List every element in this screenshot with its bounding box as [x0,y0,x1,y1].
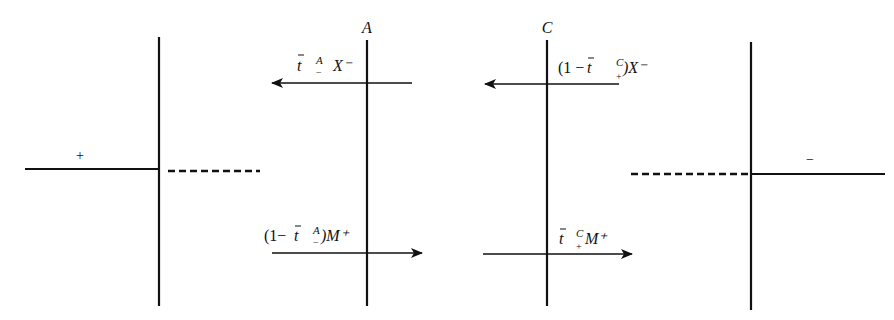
svg-text:t: t [587,59,592,76]
minus-sign-label: − [806,152,814,167]
svg-text:(1−: (1− [264,227,286,245]
svg-text:(1 −: (1 − [558,59,584,77]
panel-a: A t A − X⁻ (1− t A − )M⁺ [264,19,422,306]
panel-c-lower-label: t C + M⁺ [559,227,608,252]
svg-text:t: t [297,57,302,74]
right-panel: − [631,42,885,310]
panel-c-upper-label: (1 − t C + )X⁻ [558,56,648,82]
svg-text:)M⁺: )M⁺ [320,227,350,245]
svg-text:+: + [576,241,582,252]
membrane-transport-diagram: + A t A − X⁻ (1− t A − )M⁺ C [0,0,894,320]
svg-text:)X⁻: )X⁻ [622,59,648,77]
panel-c: C (1 − t C + )X⁻ t C + M⁺ [483,19,648,306]
panel-a-lower-label: (1− t A − )M⁺ [264,224,350,248]
panel-a-upper-label: t A − X⁻ [297,54,353,78]
svg-text:t: t [559,230,564,247]
svg-text:X⁻: X⁻ [332,57,353,74]
left-panel: + [25,37,260,306]
svg-text:M⁺: M⁺ [584,230,608,247]
svg-text:A: A [315,54,323,66]
panel-a-title: A [361,19,372,36]
svg-text:A: A [312,224,320,236]
svg-text:C: C [576,227,584,239]
svg-text:−: − [313,237,319,248]
panel-c-title: C [542,19,553,36]
svg-text:t: t [294,227,299,244]
svg-text:+: + [616,71,622,82]
plus-sign-label: + [76,148,84,163]
svg-text:−: − [316,67,322,78]
